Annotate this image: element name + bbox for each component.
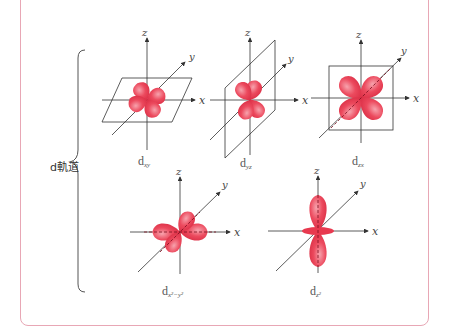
svg-text:z: z [313, 165, 320, 176]
group-label: d軌道 [50, 158, 79, 174]
svg-text:x: x [372, 225, 379, 238]
svg-text:z: z [355, 29, 362, 40]
svg-text:x: x [234, 226, 241, 239]
label-dyz: dyz [240, 156, 252, 171]
svg-text:z: z [175, 166, 182, 177]
svg-text:y: y [188, 51, 195, 62]
svg-text:z: z [244, 27, 251, 38]
orbital-dxy: z x y [102, 27, 206, 150]
svg-text:y: y [359, 178, 366, 189]
orbital-dx2-y2: z x y [130, 166, 241, 274]
svg-text:y: y [400, 45, 407, 56]
svg-text:y: y [287, 53, 294, 64]
orbital-dz2: z x y [268, 165, 379, 273]
orbital-dyz: z x y [210, 27, 309, 158]
svg-text:y: y [221, 179, 228, 190]
svg-text:x: x [413, 92, 420, 105]
label-dx2-y2: dx²−y² [162, 284, 183, 299]
label-dxy: dxy [138, 154, 150, 169]
label-dzx: dzx [352, 154, 364, 169]
svg-text:z: z [141, 27, 148, 38]
orbital-dzx: z x y [311, 29, 420, 143]
svg-text:x: x [302, 94, 309, 107]
label-dz2: dz² [310, 284, 321, 299]
svg-text:x: x [199, 94, 206, 107]
